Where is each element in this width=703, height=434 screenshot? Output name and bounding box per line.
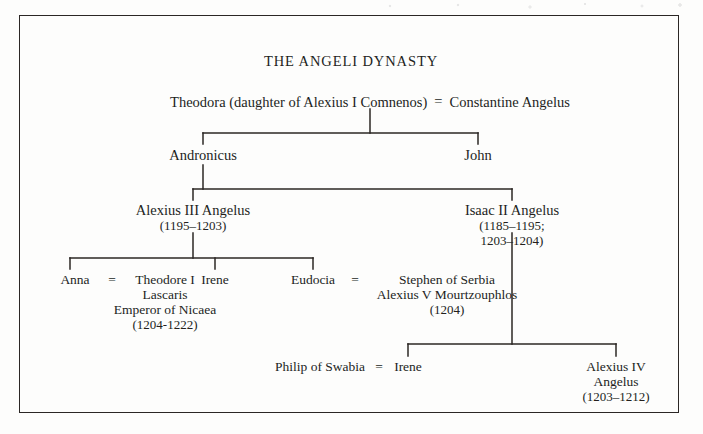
person-name: Isaac II Angelus bbox=[465, 203, 559, 218]
person-theodora: Theodora (daughter of Alexius I Comnenos… bbox=[170, 94, 427, 110]
person-andronicus: Andronicus bbox=[169, 148, 237, 163]
person-stephen-of-serbia: Stephen of Serbia bbox=[377, 272, 518, 287]
person-name: Andronicus bbox=[169, 148, 237, 163]
person-philip-of-swabia: Philip of Swabia bbox=[275, 359, 365, 374]
marriage-symbol-eudocia: = bbox=[351, 272, 359, 287]
person-name: Alexius III Angelus bbox=[136, 203, 250, 218]
person-anna: Anna bbox=[60, 272, 89, 287]
person-dates: (1204-1222) bbox=[114, 317, 217, 332]
person-name: John bbox=[464, 148, 491, 163]
person-title: Emperor of Nicaea bbox=[114, 302, 217, 317]
person-name: Eudocia bbox=[291, 272, 335, 287]
marriage-symbol-philip-irene: = bbox=[375, 359, 383, 374]
person-alexius-v: Alexius V Mourtzouphlos bbox=[377, 287, 518, 302]
person-irene-isaac-daughter: Irene bbox=[394, 359, 422, 374]
marriage-symbol: = bbox=[427, 94, 449, 109]
person-isaac-ii: Isaac II Angelus (1185–1195; 1203–1204) bbox=[465, 203, 559, 248]
person-dates-line1: (1185–1195; bbox=[465, 218, 559, 233]
person-name-line2: Lascaris bbox=[114, 287, 217, 302]
person-dates-line2: 1203–1204) bbox=[465, 233, 559, 248]
person-alexius-iv: Alexius IV Angelus (1203–1212) bbox=[582, 359, 649, 404]
person-name: Anna bbox=[60, 272, 89, 287]
marriage-symbol: = bbox=[351, 272, 359, 287]
eudocia-spouses: Stephen of Serbia Alexius V Mourtzouphlo… bbox=[377, 272, 518, 317]
couple-theodora-constantine: Theodora (daughter of Alexius I Comnenos… bbox=[170, 95, 570, 110]
person-dates: (1203–1212) bbox=[582, 389, 649, 404]
person-dates: (1195–1203) bbox=[136, 218, 250, 233]
person-name-line1: Alexius IV bbox=[582, 359, 649, 374]
page-title: THE ANGELI DYNASTY bbox=[264, 53, 438, 70]
person-dates: (1204) bbox=[377, 302, 518, 317]
person-name: Irene bbox=[201, 272, 229, 287]
person-john: John bbox=[464, 148, 491, 163]
couple-line: Theodora (daughter of Alexius I Comnenos… bbox=[170, 95, 570, 110]
person-irene-alexius-daughter: Irene bbox=[201, 272, 229, 287]
genealogy-plate: THE ANGELI DYNASTY Theodora (daughter of… bbox=[0, 0, 703, 434]
person-name: Irene bbox=[394, 359, 422, 374]
person-eudocia: Eudocia bbox=[291, 272, 335, 287]
marriage-symbol: = bbox=[375, 359, 383, 374]
scan-artifact bbox=[380, 1, 700, 11]
person-name-line2: Angelus bbox=[582, 374, 649, 389]
person-constantine-angelus: Constantine Angelus bbox=[450, 94, 570, 110]
person-alexius-iii: Alexius III Angelus (1195–1203) bbox=[136, 203, 250, 233]
plate-border bbox=[19, 15, 679, 413]
person-name: Philip of Swabia bbox=[275, 359, 365, 374]
